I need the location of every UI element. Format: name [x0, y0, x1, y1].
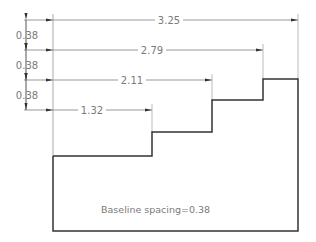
dim-label-1-32: 1.32	[81, 105, 103, 116]
vertical-dim-label-1: 0.38	[16, 30, 38, 41]
drawing-canvas: 3.25 2.79 2.11 1.32 0.38 0.38 0.38 Basel…	[0, 0, 316, 242]
dim-label-2-79: 2.79	[141, 45, 163, 56]
baseline-spacing-note: Baseline spacing=0.38	[101, 204, 210, 215]
dim-label-2-11: 2.11	[121, 75, 143, 86]
dim-label-3-25: 3.25	[158, 15, 180, 26]
vertical-dim-label-2: 0.38	[16, 60, 38, 71]
vertical-dim-label-3: 0.38	[16, 90, 38, 101]
